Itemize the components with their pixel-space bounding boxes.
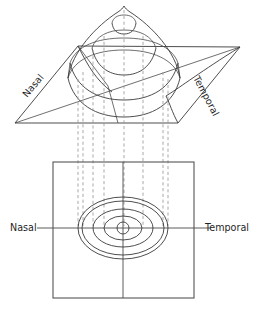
bottom-temporal-label: Temporal	[204, 222, 249, 233]
bottom-nasal-label: Nasal	[10, 222, 37, 233]
contour-map: Nasal Temporal	[10, 162, 249, 298]
contour-map-frame	[53, 162, 194, 298]
base-meridian-vertical	[108, 86, 118, 123]
top-nasal-label: Nasal	[20, 72, 46, 99]
3d-surface-plot: Nasal Temporal	[15, 6, 240, 226]
top-temporal-label: Temporal	[191, 73, 222, 118]
figure-canvas: Nasal Temporal Nasal Temporal	[0, 0, 260, 310]
